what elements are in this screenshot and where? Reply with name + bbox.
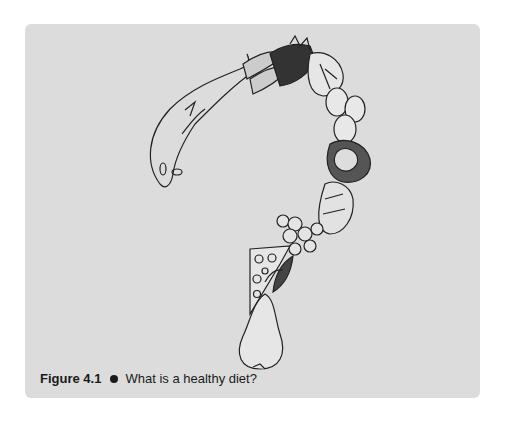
eggs-icon [326, 88, 365, 143]
figure-panel: Figure 4.1 What is a healthy diet? [25, 24, 480, 398]
figure-caption-text: What is a healthy diet? [125, 371, 257, 386]
fish-icon [150, 54, 253, 187]
cauliflower-icon [327, 140, 370, 182]
figure-caption: Figure 4.1 What is a healthy diet? [40, 371, 257, 386]
bread-icon [319, 182, 354, 234]
healthy-diet-question-mark-illustration [25, 24, 480, 398]
figure-label: Figure 4.1 [40, 371, 101, 386]
pear-icon [239, 294, 282, 369]
bullet-icon [110, 375, 118, 383]
